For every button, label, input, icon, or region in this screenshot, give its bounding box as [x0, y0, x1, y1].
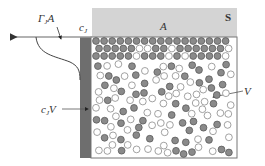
adsorbed-particle	[133, 38, 140, 45]
adsorbed-particle	[201, 45, 208, 52]
adsorbed-particle	[152, 45, 159, 52]
bulk-particle	[129, 82, 136, 89]
bulk-particle	[108, 123, 115, 130]
bulk-particle	[209, 148, 216, 155]
adsorbed-particle	[168, 112, 175, 119]
adsorbed-particle	[189, 149, 196, 156]
adsorbed-particle	[182, 139, 189, 146]
adsorbed-particle	[179, 120, 186, 127]
bulk-particle	[97, 72, 104, 79]
adsorbed-particle	[168, 63, 175, 70]
adsorbed-particle	[101, 38, 108, 45]
adsorbed-particle	[141, 80, 148, 87]
adsorbed-particle	[104, 45, 111, 52]
bulk-particle	[110, 132, 117, 139]
adsorbed-particle	[101, 53, 108, 60]
adsorbed-particle	[118, 120, 125, 127]
bulk-particle	[155, 110, 162, 117]
bulk-particle	[149, 122, 156, 129]
adsorbed-particle	[118, 136, 125, 143]
bulk-particle	[112, 95, 119, 102]
bulk-particle	[227, 102, 234, 109]
bulk-particle	[133, 146, 140, 153]
adsorbed-particle	[206, 53, 213, 60]
bulk-particle	[145, 146, 152, 153]
bulk-particle	[160, 142, 167, 149]
bulk-particle	[201, 98, 208, 105]
bulk-particle	[226, 134, 233, 141]
adsorbed-particle	[93, 53, 100, 60]
bulk-particle	[107, 105, 114, 112]
bulk-particle	[124, 126, 131, 133]
adsorbed-particle	[200, 124, 207, 131]
adsorbed-particle	[186, 127, 193, 134]
bulk-particle	[195, 136, 202, 143]
adsorbed-particle	[223, 61, 230, 68]
adsorbed-particle	[128, 45, 135, 52]
adsorbed-particle	[141, 90, 148, 97]
bulk-particle	[104, 148, 111, 155]
bulk-particle	[217, 110, 224, 117]
adsorbed-particle	[174, 53, 181, 60]
bulk-particle	[144, 109, 151, 116]
adsorbed-particle	[214, 53, 221, 60]
bulk-particle	[127, 97, 134, 104]
adsorbed-particle	[198, 38, 205, 45]
surface-label: S	[225, 11, 231, 23]
bulk-particle	[223, 90, 230, 97]
bulk-particle	[192, 100, 199, 107]
bulk-particle	[113, 113, 120, 120]
adsorbed-particle	[222, 38, 229, 45]
adsorbed-particle	[158, 88, 165, 95]
bulk-particle	[136, 45, 143, 52]
bulk-particle	[139, 98, 146, 105]
adsorbed-particle	[209, 45, 216, 52]
adsorbed-particle	[214, 121, 221, 128]
bulk-particle	[121, 73, 128, 80]
bulk-particle	[227, 71, 234, 78]
concentration-profile-curve	[36, 37, 80, 80]
adsorbed-particle	[131, 105, 138, 112]
bulk-particle	[165, 93, 172, 100]
adsorbed-particle	[214, 38, 221, 45]
bulk-particle	[187, 79, 194, 86]
bulk-particle	[184, 93, 191, 100]
adsorbed-particle	[172, 100, 179, 107]
adsorbed-particle	[101, 134, 108, 141]
adsorbed-particle	[157, 53, 164, 60]
bulk-particle	[222, 53, 229, 60]
adsorbed-particle	[132, 72, 139, 79]
adsorbed-particle	[182, 38, 189, 45]
bulk-particle	[169, 45, 176, 52]
adsorbed-particle	[113, 77, 120, 84]
adsorbed-particle	[190, 38, 197, 45]
adsorbed-particle	[96, 45, 103, 52]
adsorbed-particle	[141, 38, 148, 45]
adsorbed-particle	[190, 118, 197, 125]
adsorbed-particle	[173, 147, 180, 154]
boundary-layer	[80, 37, 91, 158]
adsorbed-particle	[93, 38, 100, 45]
adsorbed-particle	[198, 53, 205, 60]
adsorbed-particle	[166, 83, 173, 90]
bulk-particle	[104, 63, 111, 70]
adsorbed-particle	[109, 53, 116, 60]
adsorbed-particle	[149, 53, 156, 60]
adsorbed-particle	[101, 117, 108, 124]
bulk-particle	[225, 111, 232, 118]
bulk-particle	[210, 128, 217, 135]
adsorbed-particle	[193, 45, 200, 52]
adsorbed-particle	[125, 53, 132, 60]
adsorbed-particle	[95, 63, 102, 70]
adsorbed-particle	[218, 69, 225, 76]
bulk-particle	[93, 104, 100, 111]
adsorbed-particle	[226, 149, 233, 156]
adsorbed-particle	[190, 53, 197, 60]
bulk-particle	[160, 63, 167, 70]
bulk-particle	[195, 144, 202, 151]
bulk-particle	[167, 122, 174, 129]
adsorbed-particle	[102, 82, 109, 89]
adsorbed-particle	[118, 88, 125, 95]
adsorbed-particle	[105, 73, 112, 80]
adsorbed-particle	[183, 105, 190, 112]
